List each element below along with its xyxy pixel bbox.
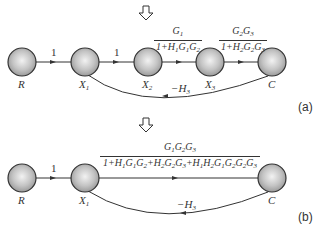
node-label-r: R [18, 78, 25, 90]
node-label-x3: X3 [205, 78, 215, 92]
feedback-gain-a: −H3 [171, 82, 190, 96]
gain-x2-x3: G1 1+H1G1G2 [154, 25, 202, 56]
node-x1 [71, 48, 99, 76]
down-arrow-icon [139, 6, 153, 20]
node-label-x2: X2 [142, 78, 152, 92]
node-label-x1: X1 [79, 78, 89, 92]
gain-r-x1: 1 [51, 46, 57, 58]
node-r [8, 48, 36, 76]
node-label-c-b: C [268, 194, 275, 206]
node-x1-b [71, 164, 99, 192]
gain-x1-c-b: G1G2G3 1+H1G1G2+H2G2G3+H1H2G1G2G2G3 [100, 141, 260, 172]
diagram-tag-b: (b) [298, 210, 313, 224]
node-label-c: C [268, 78, 275, 90]
down-arrow-icon [139, 118, 153, 132]
feedback-gain-b: −H3 [177, 198, 196, 212]
gain-x3-c: G2G3 1+H2G2G3 [219, 25, 267, 56]
node-label-r-b: R [18, 194, 25, 206]
node-label-x1-b: X1 [79, 194, 89, 208]
diagram-tag-a: (a) [298, 100, 313, 114]
node-r-b [8, 164, 36, 192]
node-c-b [258, 164, 286, 192]
gain-r-x1-b: 1 [51, 162, 57, 174]
gain-x1-x2: 1 [114, 46, 120, 58]
